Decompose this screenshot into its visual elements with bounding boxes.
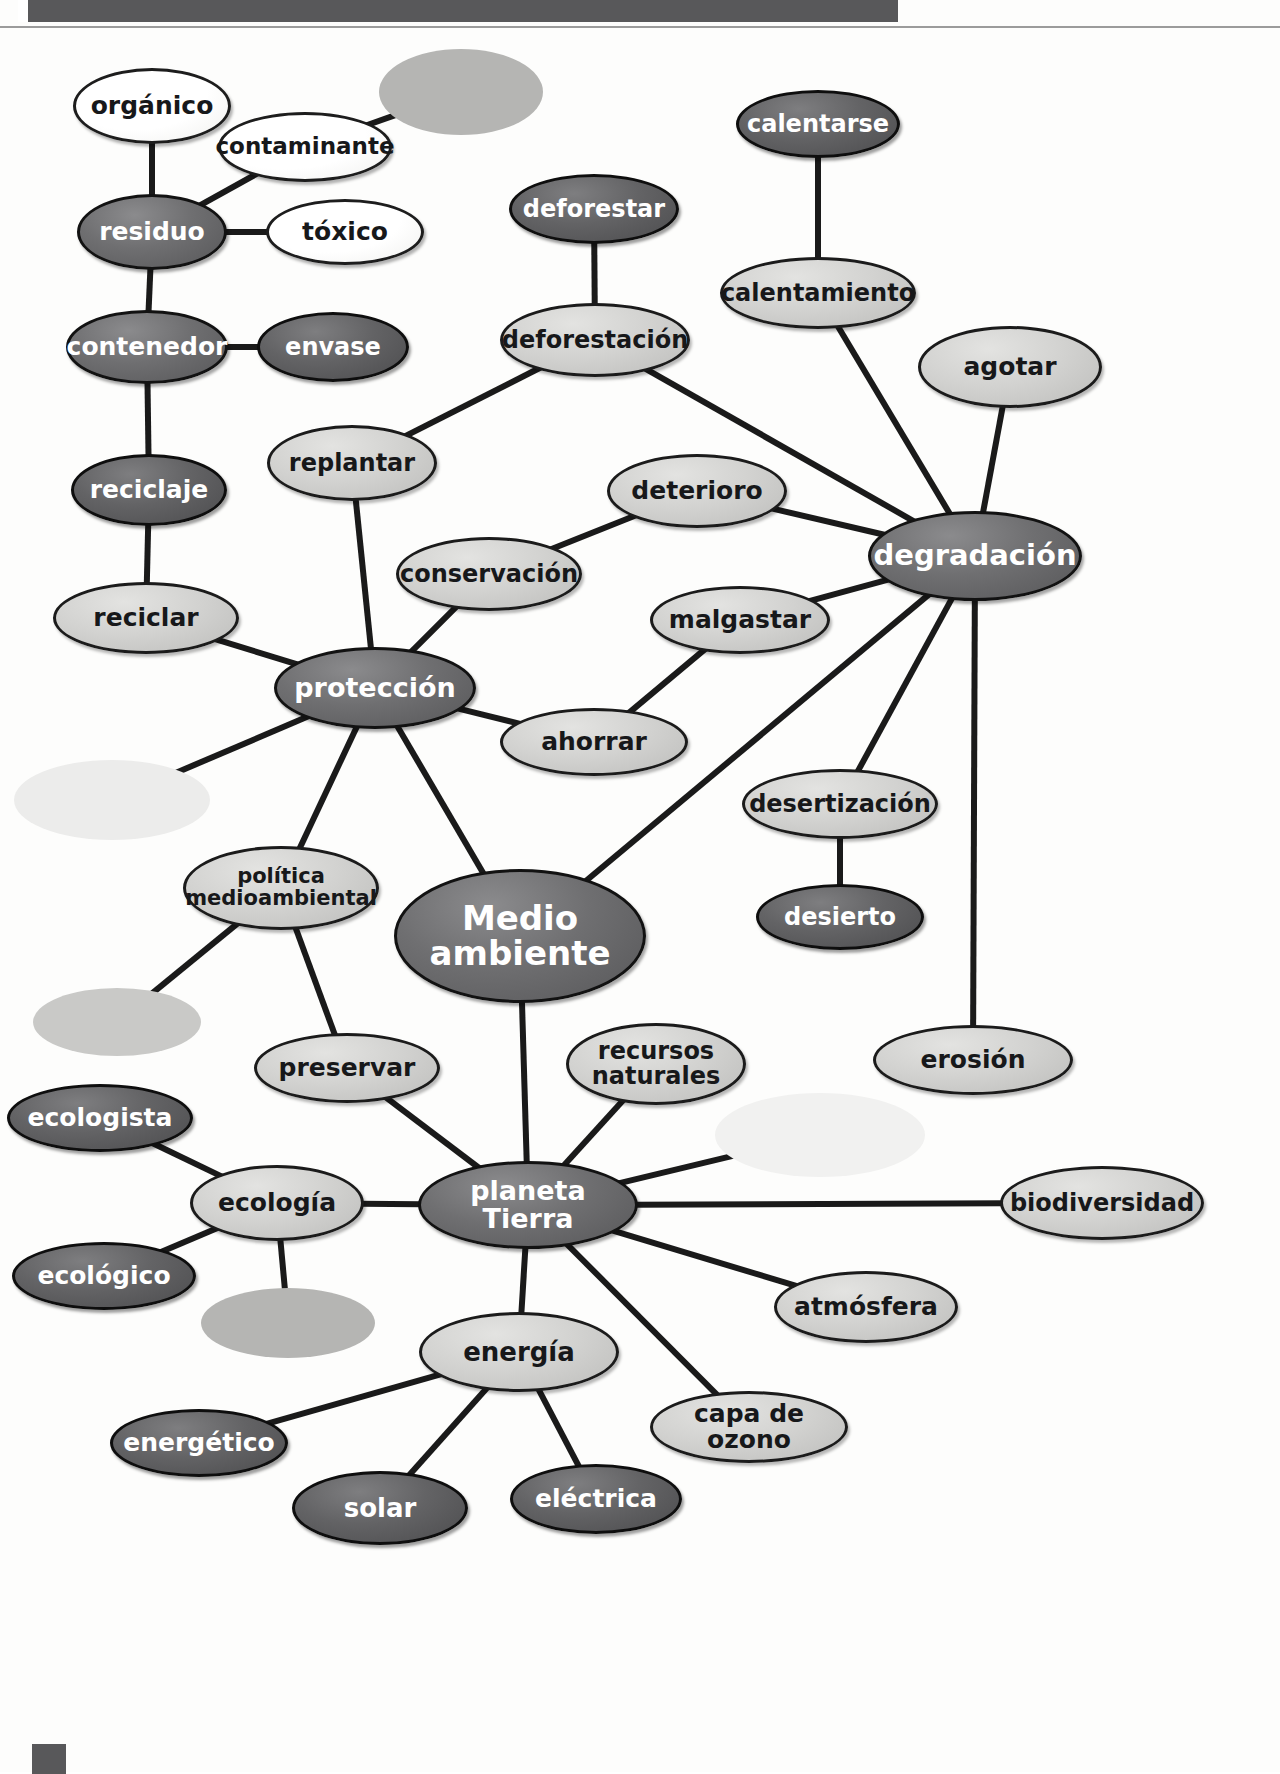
connector-proteccion-to-blank-left1 [176,716,309,773]
node-label: capa de ozono [653,1401,845,1453]
node-label: calentarse [741,112,895,137]
node-ecologista[interactable]: ecologista [7,1084,193,1152]
node-agotar[interactable]: agotar [918,326,1102,408]
connector-agotar-to-degradacion [983,404,1004,515]
node-deterioro[interactable]: deterioro [607,454,787,528]
node-label: contaminante [209,135,400,159]
node-label: orgánico [85,93,220,119]
node-label: deforestación [496,328,694,353]
page-number-marker [32,1744,66,1774]
node-organico[interactable]: orgánico [73,68,231,144]
connector-politica-to-preservar [295,926,336,1037]
connector-contaminante-to-residuo [199,173,257,205]
node-label: protección [288,674,461,702]
node-label: tóxico [296,219,394,245]
node-label: ecologista [22,1105,179,1131]
node-calentamiento[interactable]: calentamiento [720,257,916,329]
node-ahorrar[interactable]: ahorrar [500,708,688,776]
node-envase[interactable]: envase [257,312,409,382]
blank-bubble-blank-left1 [14,760,210,840]
connector-planeta-tierra-to-blank-right [618,1156,733,1184]
node-electrica[interactable]: eléctrica [510,1464,682,1534]
node-label: desierto [778,905,902,930]
node-degradacion[interactable]: degradación [868,511,1082,601]
node-medio-ambiente[interactable]: Medio ambiente [394,869,646,1003]
node-contenedor[interactable]: contenedor [66,310,228,384]
connector-residuo-to-contenedor [148,266,150,314]
node-deforestar[interactable]: deforestar [509,174,679,244]
node-energia[interactable]: energía [419,1312,619,1392]
connector-deterioro-to-degradacion [771,508,885,535]
node-label: Medio ambiente [397,901,643,971]
connector-energia-to-solar [408,1387,488,1477]
node-proteccion[interactable]: protección [274,647,476,729]
connector-degradacion-to-erosion [973,597,975,1029]
node-calentarse[interactable]: calentarse [736,90,900,158]
node-replantar[interactable]: replantar [267,425,437,501]
node-erosion[interactable]: erosión [873,1025,1073,1095]
node-label: conservación [394,562,584,587]
node-capa-ozono[interactable]: capa de ozono [650,1391,848,1463]
connector-proteccion-to-politica [299,725,358,851]
connector-ecologia-to-blank-eco [280,1237,285,1292]
connector-contenedor-to-reciclaje [147,380,148,458]
node-desertizacion[interactable]: desertización [742,769,938,839]
node-biodiversidad[interactable]: biodiversidad [1000,1166,1204,1240]
node-toxico[interactable]: tóxico [266,199,424,265]
connector-degradacion-to-desertizacion [857,596,953,773]
node-reciclar[interactable]: reciclar [53,582,239,654]
connector-deforestacion-to-replantar [405,368,541,437]
connector-ahorrar-to-proteccion [457,708,520,723]
node-label: atmósfera [788,1294,944,1320]
node-label: erosión [915,1047,1032,1073]
node-label: desertización [743,792,937,817]
connector-reciclar-to-proteccion [215,639,298,664]
node-ecologia[interactable]: ecología [190,1165,364,1241]
node-conservacion[interactable]: conservación [396,537,582,611]
connector-replantar-to-proteccion [355,497,371,651]
node-label: planeta Tierra [421,1177,635,1233]
node-label: recursos naturales [569,1039,743,1088]
blank-bubble-blank-top [379,49,543,135]
node-label: replantar [283,451,421,476]
node-malgastar[interactable]: malgastar [650,586,830,654]
node-label: deforestar [517,197,671,222]
node-atmosfera[interactable]: atmósfera [774,1271,958,1343]
node-label: agotar [957,354,1062,380]
node-label: ecológico [31,1263,176,1289]
node-label: residuo [93,219,211,245]
node-label: biodiversidad [1004,1191,1200,1216]
node-label: ecología [212,1190,342,1216]
connector-proteccion-to-medio-ambiente [396,724,484,875]
connector-planeta-tierra-to-biodiversidad [634,1203,1004,1204]
node-label: malgastar [663,607,817,633]
node-label: deterioro [625,478,768,504]
node-preservar[interactable]: preservar [254,1033,440,1103]
node-ecologico[interactable]: ecológico [12,1242,196,1310]
node-desierto[interactable]: desierto [756,884,924,950]
node-planeta-tierra[interactable]: planeta Tierra [418,1161,638,1249]
node-energetico[interactable]: energético [110,1409,288,1477]
connector-energia-to-energetico [267,1374,442,1424]
connector-planeta-tierra-to-recursos [563,1099,624,1167]
node-residuo[interactable]: residuo [77,194,227,270]
node-contaminante[interactable]: contaminante [218,112,392,182]
connector-ecologista-to-ecologia [153,1143,222,1176]
connector-reciclaje-to-reciclar [147,522,149,586]
blank-bubble-blank-left2 [33,988,201,1056]
node-recursos[interactable]: recursos naturales [566,1023,746,1105]
node-label: energético [117,1430,280,1456]
node-solar[interactable]: solar [292,1471,468,1545]
connector-planeta-tierra-to-atmosfera [612,1230,797,1286]
node-label: reciclar [87,605,204,631]
connector-planeta-tierra-to-energia [521,1245,525,1316]
node-politica[interactable]: política medioambiental [183,846,379,930]
node-label: contenedor [61,334,234,360]
connector-malgastar-to-degradacion [809,579,889,601]
connector-ecologico-to-ecologia [161,1228,218,1252]
node-label: política medioambiental [179,866,383,909]
node-reciclaje[interactable]: reciclaje [71,454,227,526]
node-deforestacion[interactable]: deforestación [500,303,690,377]
connector-medio-ambiente-to-planeta-tierra [522,999,527,1165]
